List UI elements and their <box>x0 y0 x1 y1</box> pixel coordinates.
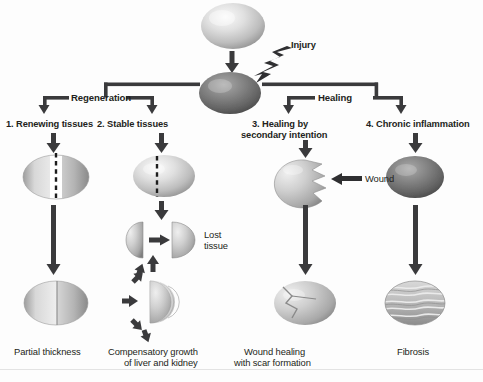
wound-label: Wound <box>365 173 394 184</box>
regeneration-group-label: Regeneration <box>71 92 131 103</box>
column-stable-arrow-mid <box>155 201 169 220</box>
column-secondary-arrow-top <box>299 140 313 158</box>
chronic-inflammation-shape <box>386 156 444 198</box>
footer-rule <box>0 369 483 370</box>
caption-compensatory-line2: of liver and kidney <box>124 357 198 368</box>
column-heading-chronic: 4. Chronic inflammation <box>366 119 470 130</box>
wound-tissue-shape <box>274 160 326 208</box>
column-heading-secondary-line2: secondary intention <box>241 130 327 141</box>
caption-wound-healing-line2: with scar formation <box>234 357 311 368</box>
tissue-repair-diagram <box>0 0 483 382</box>
compensatory-growth-shape <box>150 281 179 323</box>
column-heading-renewing: 1. Renewing tissues <box>6 119 93 130</box>
caption-wound-healing-line1: Wound healing <box>244 346 305 357</box>
fibrosis-shape <box>384 281 448 325</box>
normal-tissue-ovoid <box>201 3 265 49</box>
column-chronic-arrow-bottom <box>409 205 423 275</box>
column-renewing-arrow-top <box>47 133 61 153</box>
caption-fibrosis: Fibrosis <box>397 346 429 357</box>
scar-tissue-shape <box>274 281 336 325</box>
arrow-normal-to-injured <box>225 51 239 73</box>
injury-label: Injury <box>291 40 316 51</box>
renewing-tissue-shape <box>23 153 89 201</box>
lost-tissue-label-line2: tissue <box>204 240 228 251</box>
lost-tissue-label-line1: Lost <box>204 229 221 240</box>
column-heading-stable: 2. Stable tissues <box>97 119 168 130</box>
caption-compensatory-line1: Compensatory growth <box>108 346 198 357</box>
stable-tissue-shape <box>133 155 195 197</box>
column-chronic-arrow-top <box>409 133 423 153</box>
partial-thickness-shape <box>24 281 88 325</box>
column-renewing-arrow-bottom <box>47 205 61 275</box>
stable-tissue-split <box>126 222 196 258</box>
wound-pointer-arrow <box>331 173 362 185</box>
healing-group-label: Healing <box>318 92 352 103</box>
column-heading-secondary-line1: 3. Healing by <box>252 119 308 130</box>
caption-partial-thickness: Partial thickness <box>14 346 81 357</box>
column-secondary-arrow-bottom <box>299 205 313 275</box>
injured-tissue-ovoid <box>199 72 261 114</box>
injury-lightning-icon <box>254 46 292 83</box>
column-stable-arrow-top <box>155 133 169 153</box>
